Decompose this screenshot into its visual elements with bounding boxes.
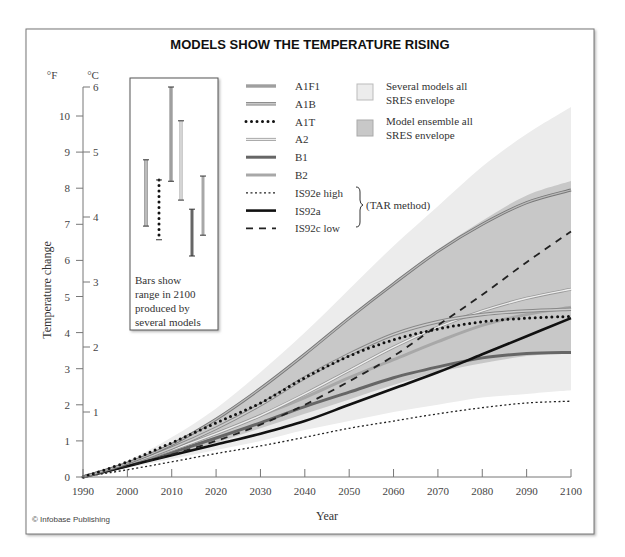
x-tick: 2080 [471, 485, 494, 497]
x-tick: 2060 [383, 485, 406, 497]
legend-tar-method: (TAR method) [366, 199, 431, 212]
inset-text-line-3: produced by [135, 302, 190, 314]
x-tick: 2040 [294, 485, 317, 497]
unit-celsius: °C [87, 69, 99, 81]
x-tick: 2030 [249, 485, 272, 497]
y-tick-f: 8 [65, 182, 71, 194]
y-tick-f: 0 [65, 471, 71, 483]
legend-envelope-1-line-2: SRES envelope [386, 94, 455, 106]
legend-swatch-model-ensemble [357, 120, 373, 136]
legend-item-a2: A2 [295, 133, 308, 145]
y-tick-f: 9 [65, 146, 71, 158]
legend-envelope-1-line-1: Several models all [386, 80, 467, 92]
x-axis-label: Year [316, 509, 338, 523]
y-tick-f: 7 [65, 218, 71, 230]
inset-text-line-1: Bars show [135, 274, 181, 286]
x-tick: 2050 [338, 485, 361, 497]
x-tick: 2090 [516, 485, 539, 497]
chart-figure: MODELS SHOW THE TEMPERATURE RISING 01234… [0, 0, 625, 557]
y-tick-f: 1 [65, 435, 71, 447]
legend-item-a1b: A1B [295, 98, 316, 110]
legend-item-is92a: IS92a [295, 205, 321, 217]
chart-title: MODELS SHOW THE TEMPERATURE RISING [170, 37, 449, 52]
y-tick-f: 6 [65, 254, 71, 266]
legend-envelope-2-line-2: SRES envelope [386, 129, 455, 141]
legend-swatch-several-models [357, 84, 373, 100]
y-tick-c: 4 [93, 211, 99, 223]
y-tick-c: 1 [93, 406, 99, 418]
legend-item-b2: B2 [295, 169, 308, 181]
y-tick-f: 4 [65, 327, 71, 339]
x-tick: 2020 [205, 485, 228, 497]
x-tick: 1990 [72, 485, 95, 497]
unit-fahrenheit: °F [47, 69, 58, 81]
y-tick-c: 2 [93, 341, 99, 353]
y-tick-f: 5 [65, 291, 71, 303]
y-axis-label: Temperature change [40, 241, 54, 338]
legend-item-is92e-high: IS92e high [295, 187, 343, 199]
y-tick-c: 3 [93, 276, 99, 288]
y-tick-f: 10 [59, 110, 71, 122]
x-tick: 2070 [427, 485, 450, 497]
inset-text-line-4: several models [135, 316, 201, 328]
inset-text-line-2: range in 2100 [135, 288, 196, 300]
x-tick: 2000 [116, 485, 139, 497]
legend-item-a1f1: A1F1 [295, 80, 320, 92]
credit-text: © Infobase Publishing [32, 515, 110, 524]
y-tick-f: 2 [65, 399, 71, 411]
y-tick-c: 6 [93, 81, 99, 93]
legend-envelope-2-line-1: Model ensemble all [386, 115, 473, 127]
y-tick-f: 3 [65, 363, 71, 375]
y-tick-c: 5 [93, 146, 99, 158]
legend-item-b1: B1 [295, 151, 308, 163]
legend-item-a1t: A1T [295, 116, 315, 128]
x-tick: 2100 [560, 485, 583, 497]
x-tick: 2010 [161, 485, 184, 497]
legend-item-is92c-low: IS92c low [295, 222, 340, 234]
